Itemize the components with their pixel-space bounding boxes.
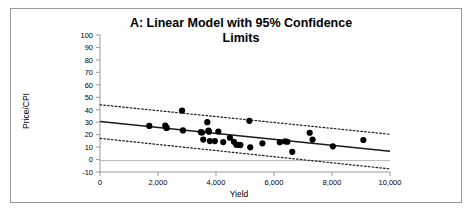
figure-frame: A: Linear Model with 95% ConfidenceLimit… (10, 8, 462, 203)
x-axis-title: Yield (230, 189, 249, 199)
y-axis-title: Price/CPI (21, 93, 31, 129)
y-tick-label: 10 (85, 143, 93, 152)
x-tick-label: 8,000 (323, 178, 342, 187)
y-tick-label: 70 (85, 68, 93, 77)
data-point (330, 143, 336, 149)
data-point (212, 138, 218, 144)
data-point (215, 128, 221, 134)
y-axis-ticks: -100102030405060708090100 (80, 31, 100, 177)
data-point (277, 139, 283, 145)
confidence-limit-line (100, 105, 390, 135)
y-tick-label: 90 (85, 43, 93, 52)
confidence-limit-line (100, 138, 390, 169)
data-point (206, 129, 212, 135)
y-tick-label: 40 (85, 106, 93, 115)
data-point (360, 137, 366, 143)
chart-title-line-1: A: Linear Model with 95% ConfidenceLimit… (130, 16, 352, 45)
data-point (180, 127, 186, 133)
data-point (146, 123, 152, 129)
x-tick-label: 10,000 (379, 178, 402, 187)
x-tick-label: 0 (98, 178, 102, 187)
x-tick-label: 4,000 (207, 178, 226, 187)
data-point (204, 119, 210, 125)
y-tick-label: 0 (89, 155, 93, 164)
y-tick-label: 60 (85, 81, 93, 90)
y-tick-label: -10 (82, 168, 93, 177)
data-point (164, 125, 170, 131)
data-point (259, 140, 265, 146)
data-point (179, 107, 185, 113)
y-tick-label: 20 (85, 130, 93, 139)
y-tick-label: 30 (85, 118, 93, 127)
linear-model-scatter-chart: A: Linear Model with 95% ConfidenceLimit… (11, 9, 461, 202)
fit-line (100, 122, 390, 152)
y-tick-label: 80 (85, 56, 93, 65)
data-point (200, 137, 206, 143)
data-point (309, 137, 315, 143)
data-point (289, 149, 295, 155)
x-axis-ticks: 02,0004,0006,0008,00010,000 (98, 172, 402, 187)
regression-fit-line (100, 122, 390, 152)
data-point (247, 144, 253, 150)
data-point (237, 142, 243, 148)
y-tick-label: 50 (85, 93, 93, 102)
x-tick-label: 2,000 (149, 178, 168, 187)
data-point (246, 118, 252, 124)
data-point (307, 130, 313, 136)
y-tick-label: 100 (80, 31, 93, 40)
x-tick-label: 6,000 (265, 178, 284, 187)
data-point (284, 139, 290, 145)
data-point (220, 139, 226, 145)
data-points (146, 107, 366, 154)
data-point (199, 129, 205, 135)
